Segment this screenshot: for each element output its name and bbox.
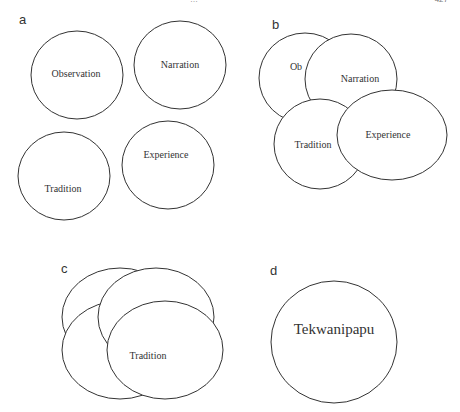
panel-b — [259, 33, 447, 189]
circle-experience — [122, 121, 214, 209]
label-observation: Observation — [52, 68, 101, 79]
label-ob-b: Ob — [290, 61, 302, 72]
panel-d — [271, 281, 397, 403]
label-tradition-b: Tradition — [295, 139, 332, 150]
label-experience-a: Experience — [144, 149, 190, 160]
label-narration-a: Narration — [161, 59, 199, 70]
circle-tradition — [18, 132, 110, 220]
panel-c — [62, 268, 223, 399]
label-experience-b: Experience — [366, 129, 412, 140]
label-narration-b: Narration — [341, 73, 379, 84]
circle-tekwanipapu — [271, 281, 397, 403]
label-tekwanipapu: Tekwanipapu — [294, 321, 375, 337]
label-tradition-a: Tradition — [45, 183, 82, 194]
label-tradition-c: Tradition — [130, 350, 167, 361]
venn-diagram-figure: Observation Narration Tradition Experien… — [0, 0, 460, 412]
